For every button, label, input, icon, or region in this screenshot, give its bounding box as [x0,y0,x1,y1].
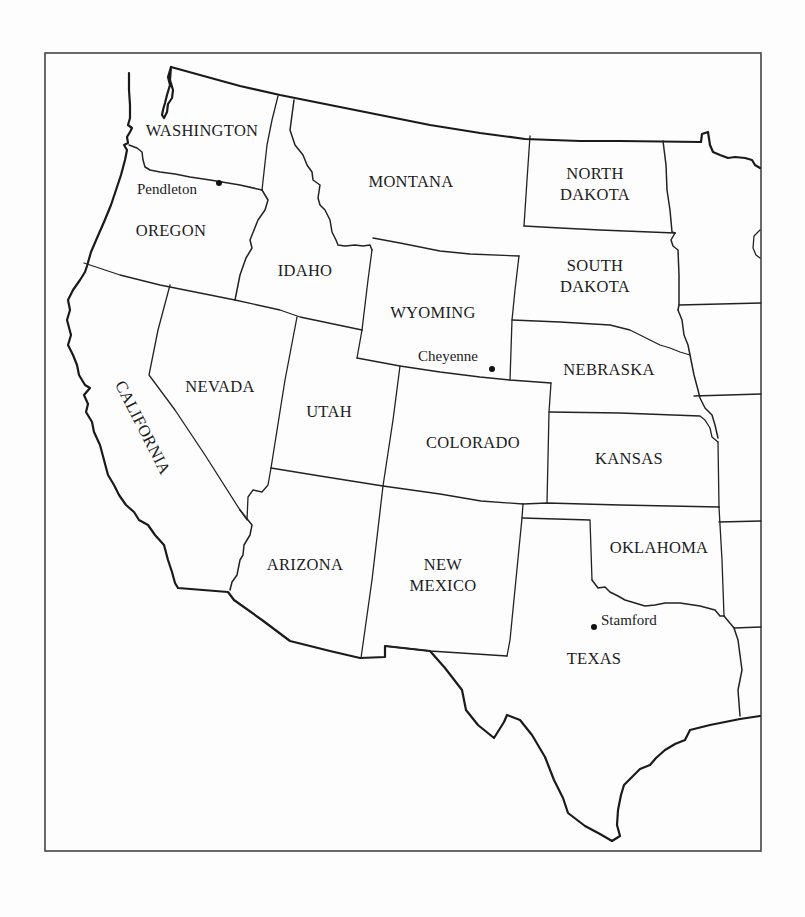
city-pendleton: Pendleton [137,180,222,197]
state-label-wyoming: WYOMING [390,303,476,322]
state-label-idaho: IDAHO [278,261,333,280]
state-label-oregon: OREGON [136,221,207,240]
state-label-arizona: ARIZONA [267,555,343,574]
state-label-texas: TEXAS [567,649,622,668]
canada-border [171,67,760,168]
city-cheyenne: Cheyenne [418,348,495,372]
city-dot-icon [489,366,495,372]
western-us-map: WASHINGTONOREGONIDAHOMONTANANORTHDAKOTAS… [0,0,805,917]
state-label-nebraska: NEBRASKA [563,360,654,379]
state-label-oklahoma: OKLAHOMA [610,538,709,557]
city-markers: PendletonCheyenneStamford [137,180,657,630]
state-label-south-dakota: SOUTHDAKOTA [560,256,630,296]
state-labels: WASHINGTONOREGONIDAHOMONTANANORTHDAKOTAS… [111,121,708,668]
state-label-kansas: KANSAS [595,449,663,468]
city-dot-icon [216,180,222,186]
state-label-colorado: COLORADO [426,433,520,452]
city-dot-icon [591,624,597,630]
city-stamford: Stamford [591,612,657,630]
state-label-california: CALIFORNIA [111,377,175,477]
state-label-washington: WASHINGTON [146,121,259,140]
state-label-montana: MONTANA [368,172,453,191]
state-label-north-dakota: NORTHDAKOTA [560,164,630,204]
state-label-nevada: NEVADA [185,377,254,396]
city-label: Pendleton [137,181,197,197]
state-label-utah: UTAH [306,402,352,421]
state-label-new-mexico: NEWMEXICO [410,555,477,595]
city-label: Stamford [601,612,657,628]
city-label: Cheyenne [418,348,478,364]
